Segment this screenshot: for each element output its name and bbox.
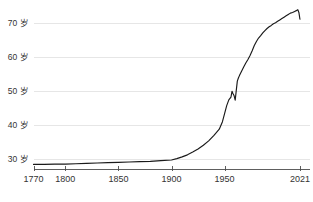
y-tick-label-50: 50 岁: [0, 86, 29, 96]
y-tick-label-30: 30 岁: [0, 154, 29, 164]
x-axis-group: [34, 166, 310, 171]
x-tick-label-2021: 2021: [280, 174, 313, 185]
y-tick-label-60: 60 岁: [0, 52, 29, 62]
life-expectancy-chart: 30 岁40 岁50 岁60 岁70 岁 1770180018501900195…: [0, 0, 313, 202]
gridlines-group: [34, 23, 310, 160]
data-series-group: [34, 10, 300, 165]
x-tick-label-1850: 1850: [98, 174, 138, 185]
x-tick-label-1900: 1900: [152, 174, 192, 185]
series-line-life-expectancy: [34, 10, 300, 165]
y-tick-label-70: 70 岁: [0, 18, 29, 28]
y-tick-label-40: 40 岁: [0, 120, 29, 130]
x-tick-label-1950: 1950: [205, 174, 245, 185]
chart-canvas: [0, 0, 313, 202]
x-tick-label-1800: 1800: [45, 174, 85, 185]
